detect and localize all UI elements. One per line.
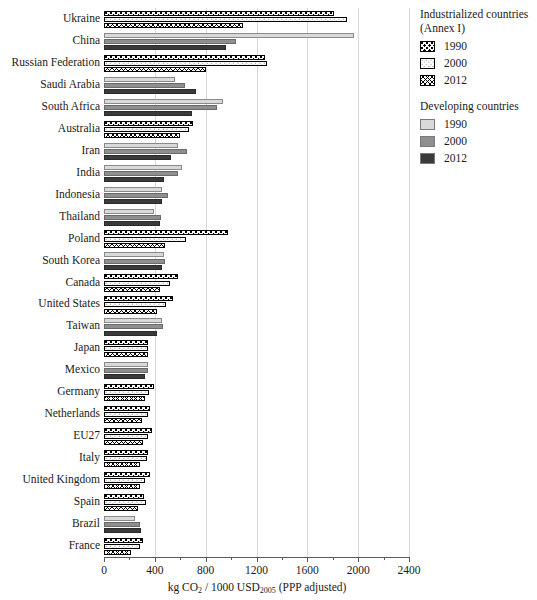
bar-spain-1990 [104, 494, 144, 499]
legend-swatch-icon [420, 58, 435, 69]
plot-area [104, 8, 409, 557]
bar-thailand-2012 [104, 221, 160, 226]
gridline-1200 [257, 8, 258, 557]
bar-iran-2000 [104, 149, 187, 154]
bar-taiwan-1990 [104, 318, 162, 323]
bar-eu27-2000 [104, 434, 148, 439]
category-label-thailand: Thailand [59, 211, 100, 223]
bar-south-africa-1990 [104, 99, 223, 104]
bar-eu27-1990 [104, 428, 152, 433]
x-tick-label-0: 0 [101, 564, 107, 576]
bar-italy-2000 [104, 456, 147, 461]
x-tick-1600 [307, 557, 308, 562]
legend-group-title: Developing countries [420, 100, 537, 113]
bar-brazil-1990 [104, 516, 135, 521]
x-axis-title-sub-year: 2005 [260, 586, 276, 595]
bar-poland-1990 [104, 230, 228, 235]
bar-south-korea-1990 [104, 252, 164, 257]
category-label-italy: Italy [79, 452, 100, 464]
x-tick-label-800: 800 [197, 564, 214, 576]
bar-russian-federation-2000 [104, 61, 267, 66]
bar-germany-1990 [104, 384, 154, 389]
legend-spacer [420, 89, 537, 100]
category-label-france: France [69, 540, 100, 552]
gridline-2400 [409, 8, 410, 557]
bar-australia-2012 [104, 133, 180, 138]
bar-south-korea-2000 [104, 259, 165, 264]
bar-taiwan-2000 [104, 324, 163, 329]
bar-thailand-1990 [104, 209, 154, 214]
legend-label: 1990 [444, 119, 467, 131]
legend-item-developing-1990[interactable]: 1990 [420, 116, 537, 133]
bar-indonesia-1990 [104, 187, 162, 192]
legend-label: 2000 [444, 58, 467, 70]
x-minor-tick-1400 [282, 557, 283, 560]
legend-swatch-icon [420, 153, 435, 164]
gridline-1600 [307, 8, 308, 557]
legend-group-subtitle: (Annex I) [420, 22, 537, 35]
bar-russian-federation-1990 [104, 55, 265, 60]
category-label-china: China [73, 35, 100, 47]
legend-item-developing-2012[interactable]: 2012 [420, 150, 537, 167]
bar-china-1990 [104, 33, 354, 38]
bar-poland-2012 [104, 243, 165, 248]
bar-united-kingdom-2012 [104, 484, 140, 489]
bar-ukraine-2012 [104, 23, 243, 28]
legend-group-title: Industrialized countries [420, 8, 537, 21]
category-label-taiwan: Taiwan [66, 320, 100, 332]
bar-australia-1990 [104, 121, 193, 126]
legend-item-industrialized-2012[interactable]: 2012 [420, 72, 537, 89]
legend-item-industrialized-1990[interactable]: 1990 [420, 38, 537, 55]
bar-netherlands-2012 [104, 418, 142, 423]
bar-iran-2012 [104, 155, 171, 160]
bar-mexico-2012 [104, 374, 145, 379]
category-label-australia: Australia [58, 123, 100, 135]
category-label-iran: Iran [81, 145, 100, 157]
category-label-canada: Canada [66, 277, 100, 289]
bar-united-kingdom-1990 [104, 472, 150, 477]
category-label-netherlands: Netherlands [44, 408, 100, 420]
category-label-brazil: Brazil [72, 518, 100, 530]
bar-spain-2012 [104, 506, 138, 511]
legend-swatch-icon [420, 136, 435, 147]
x-tick-label-2000: 2000 [347, 564, 370, 576]
x-tick-2000 [358, 557, 359, 562]
bar-indonesia-2012 [104, 199, 162, 204]
bar-japan-1990 [104, 340, 148, 345]
legend-item-industrialized-2000[interactable]: 2000 [420, 55, 537, 72]
bar-brazil-2012 [104, 528, 141, 533]
bar-poland-2000 [104, 237, 186, 242]
category-label-poland: Poland [68, 233, 100, 245]
legend-item-developing-2000[interactable]: 2000 [420, 133, 537, 150]
bar-japan-2012 [104, 352, 148, 357]
bar-india-2000 [104, 171, 178, 176]
bar-indonesia-2000 [104, 193, 168, 198]
category-label-russian-federation: Russian Federation [12, 57, 100, 69]
bar-canada-2000 [104, 281, 170, 286]
category-label-south-korea: South Korea [42, 255, 100, 267]
bar-france-2000 [104, 544, 140, 549]
legend-label: 2012 [444, 75, 467, 87]
bar-eu27-2012 [104, 440, 143, 445]
x-tick-800 [206, 557, 207, 562]
category-label-united-kingdom: United Kingdom [22, 474, 100, 486]
bar-netherlands-1990 [104, 406, 150, 411]
bar-united-states-2012 [104, 309, 157, 314]
category-label-ukraine: Ukraine [63, 13, 100, 25]
category-label-spain: Spain [74, 496, 100, 508]
bar-iran-1990 [104, 143, 178, 148]
x-tick-label-400: 400 [146, 564, 163, 576]
bar-china-2012 [104, 45, 226, 50]
category-label-mexico: Mexico [65, 364, 100, 376]
bar-saudi-arabia-2000 [104, 83, 185, 88]
category-label-japan: Japan [74, 342, 100, 354]
bar-mexico-2000 [104, 368, 148, 373]
x-minor-tick-2200 [384, 557, 385, 560]
bar-mexico-1990 [104, 362, 148, 367]
x-axis-title: kg CO2 / 1000 USD2005 (PPP adjusted) [104, 581, 410, 593]
bar-brazil-2000 [104, 522, 140, 527]
bar-china-2000 [104, 39, 236, 44]
bar-japan-2000 [104, 346, 148, 351]
bar-spain-2000 [104, 500, 146, 505]
x-tick-label-1200: 1200 [245, 564, 268, 576]
